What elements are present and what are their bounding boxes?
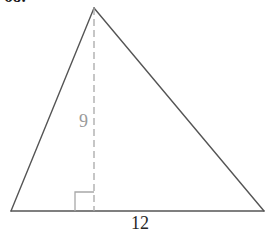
triangle-diagram-svg xyxy=(0,0,267,235)
base-measurement-label: 12 xyxy=(131,214,149,232)
right-angle-marker-icon xyxy=(75,192,94,211)
triangle-right-edge xyxy=(94,8,264,211)
triangle-left-edge xyxy=(11,8,94,211)
geometry-figure: 68. 9 12 xyxy=(0,0,267,235)
height-measurement-label: 9 xyxy=(79,112,88,130)
